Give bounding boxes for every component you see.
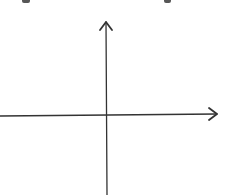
x-axis [0,114,217,116]
coordinate-axes-diagram [0,0,238,195]
y-axis [106,22,107,195]
